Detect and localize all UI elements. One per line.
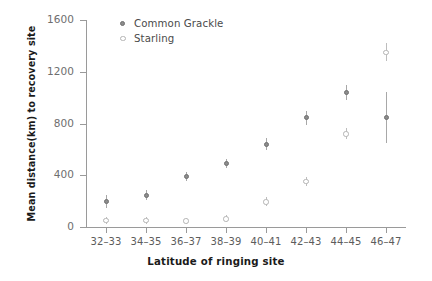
- x-tick-label: 46–47: [362, 236, 410, 247]
- x-axis-title: Latitude of ringing site: [0, 256, 432, 267]
- legend: Common Grackle Starling: [118, 16, 223, 46]
- y-axis-title: Mean distance(km) to recovery site: [26, 18, 37, 229]
- data-point-starling: [343, 131, 349, 137]
- legend-item-starling: Starling: [118, 31, 223, 45]
- data-point-starling: [303, 179, 309, 185]
- legend-label: Starling: [134, 33, 174, 44]
- data-point-starling: [263, 199, 269, 205]
- legend-item-common-grackle: Common Grackle: [118, 16, 223, 30]
- data-point-common-grackle: [344, 90, 349, 95]
- legend-label: Common Grackle: [134, 18, 223, 29]
- y-axis-title-wrapper: Mean distance(km) to recovery site: [26, 18, 44, 229]
- data-point-starling: [223, 216, 229, 222]
- filled-circle-icon: [118, 18, 128, 28]
- data-point-starling: [383, 50, 389, 56]
- data-point-common-grackle: [184, 174, 189, 179]
- data-point-common-grackle: [224, 161, 229, 166]
- open-circle-icon: [118, 33, 128, 43]
- scatter-chart: 040080012001600 32–3334–3536–3738–3940–4…: [0, 0, 432, 281]
- data-point-starling: [143, 218, 149, 224]
- data-point-starling: [183, 218, 189, 224]
- data-point-starling: [103, 218, 109, 224]
- data-point-common-grackle: [304, 115, 309, 120]
- data-point-common-grackle: [384, 115, 389, 120]
- plot-area: [86, 18, 406, 229]
- data-point-common-grackle: [144, 193, 149, 198]
- data-point-common-grackle: [104, 199, 109, 204]
- data-point-common-grackle: [264, 142, 269, 147]
